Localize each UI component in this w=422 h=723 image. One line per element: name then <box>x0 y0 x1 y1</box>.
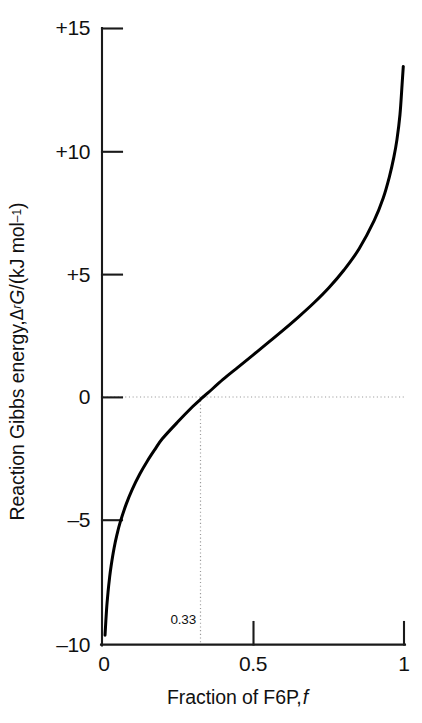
y-tick-label-0: 0 <box>12 386 90 407</box>
x-axis-ticks <box>254 622 405 645</box>
y-tick-label-minus-5: –5 <box>12 509 90 530</box>
x-axis-title-text: Fraction of F6P, <box>167 686 302 708</box>
x-tick-label-1: 1 <box>364 652 422 676</box>
plot-area <box>0 0 422 723</box>
gibbs-energy-chart-figure: Reaction Gibbs energy, ΔrG/(kJ mol–1) +1… <box>0 0 422 723</box>
y-axis-ticks <box>102 29 122 521</box>
gibbs-energy-curve <box>105 66 403 635</box>
x-axis-title-italic-f: f <box>302 686 308 708</box>
x-axis-title: Fraction of F6P,f <box>60 686 415 709</box>
equilibrium-fraction-annotation: 0.33 <box>140 612 196 627</box>
y-tick-label-5: +5 <box>12 264 90 285</box>
x-tick-label-0: 0 <box>64 652 144 676</box>
y-tick-label-15: +15 <box>12 17 90 38</box>
y-tick-label-10: +10 <box>12 141 90 162</box>
x-tick-label-0-5: 0.5 <box>213 652 293 676</box>
